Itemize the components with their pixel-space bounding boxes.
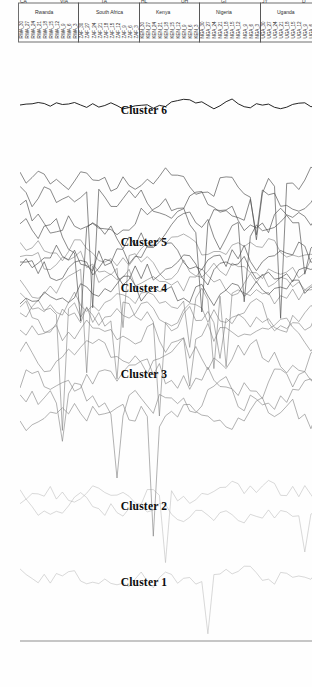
sample-label: NGA_12 [236,21,241,38]
country-group-label: Rwanda [35,8,53,14]
sample-label: NGA_27 [206,21,211,38]
region-axis-label: VIA [60,0,68,3]
cluster-label: Cluster 6 [121,103,168,115]
figure-canvas: 1400120010008006004002000 Nucleotide var… [0,0,312,687]
sample-label: NGA_18 [224,21,229,38]
cluster-trace-4 [20,234,312,430]
sample-label: ZAF_18 [104,22,109,38]
sample-label: ZAF_6 [128,25,133,38]
sample-label-panel: RWA_30RWA_27RWA_24RWA_21RWA_18RWA_15RWA_… [18,2,312,42]
country-group-label: Nigeria [216,8,232,14]
sample-label: RWA_21 [37,20,42,38]
sample-label: UGA_18 [285,21,290,38]
sample-label: KEN_21 [158,21,163,38]
country-group-label: Kenya [156,8,170,14]
rotated-plot-frame: 1400120010008006004002000 Nucleotide var… [0,0,312,687]
sample-label: RWA_18 [43,20,48,38]
sample-label: NGA_24 [212,21,217,38]
sample-label: UGA_27 [267,21,272,38]
cluster-label: Cluster 1 [121,576,168,588]
sample-label: UGA_21 [279,21,284,38]
sample-label: NGA_21 [218,21,223,38]
region-axis-label: HL [141,0,147,3]
sample-label: KEN_9 [182,24,187,38]
sample-label: UGA_12 [297,21,302,38]
sample-label: KEN_24 [152,21,157,38]
sample-label: RWA_9 [61,23,66,38]
sample-label: NGA_9 [243,23,248,38]
sample-label: UGA_24 [273,21,278,38]
sample-label: ZAF_9 [122,25,127,38]
sample-label: UGA_9 [303,23,308,38]
sample-label: UGA_6 [309,23,312,38]
cluster-trace-plot [20,45,312,640]
sample-label: KEN_30 [140,21,145,38]
sample-label: KEN_15 [170,21,175,38]
region-axis-label: GI [221,0,226,3]
trace-line [20,251,312,349]
sample-label: ZAF_27 [85,22,90,38]
cluster-traces-svg [20,45,312,640]
sample-label: RWA_12 [55,20,60,38]
sample-label: ZAF_21 [98,22,103,38]
sample-label: NGA_30 [200,21,205,38]
sample-label: NGA_6 [249,23,254,38]
cluster-trace-2 [20,477,312,587]
cluster-trace-1 [20,565,312,634]
sample-label: UGA_15 [291,21,296,38]
trace-line [20,232,312,364]
region-axis-label: UH [181,0,188,3]
sample-label: UGA_30 [261,21,266,38]
sample-label: RWA_15 [49,20,54,38]
sample-label: RWA_30 [19,20,24,38]
trace-line [20,376,312,477]
sample-label: RWA_27 [25,20,30,38]
trace-line [20,397,312,536]
sample-label: KEN_12 [176,21,181,38]
sample-label: ZAF_30 [79,22,84,38]
cluster-label: Cluster 4 [121,282,168,294]
sample-label: NGA_15 [230,21,235,38]
cluster-label: Cluster 3 [121,367,168,379]
country-group-label: Uganda [277,8,295,14]
sample-label: KEN_18 [164,21,169,38]
region-axis-label: JY [262,0,268,3]
sample-label: RWA_6 [67,23,72,38]
trace-line [20,300,312,430]
sample-label: ZAF_15 [110,22,115,38]
region-axis-label: D [302,0,306,3]
sample-label: KEN_27 [146,21,151,38]
trace-line [20,275,312,412]
sample-label: RWA_24 [31,20,36,38]
sample-label: KEN_6 [188,24,193,38]
cluster-label: Cluster 5 [121,235,168,247]
trace-line [20,254,312,363]
region-axis-label: TA [101,0,107,3]
trace-line [20,565,312,634]
sample-label: ZAF_12 [116,22,121,38]
trace-line [20,355,312,427]
country-group-label: South Africa [96,8,123,14]
cluster-label: Cluster 2 [121,499,168,511]
region-axis-label: CA [20,0,27,3]
sample-label: ZAF_24 [92,22,97,38]
trace-line [20,477,312,587]
